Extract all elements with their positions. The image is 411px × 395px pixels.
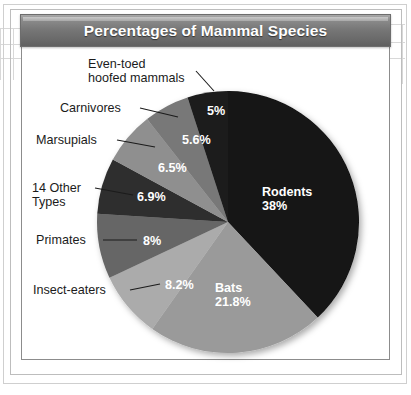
callout-marsupials: Marsupials [36, 133, 97, 147]
callout-even-toed-hoofed-mammals: Even-toed hoofed mammals [88, 57, 185, 85]
slice-value-bats: 21.8% [215, 295, 251, 309]
callout-carnivores: Carnivores [60, 101, 121, 115]
slice-label-bats: Bats [215, 281, 242, 295]
slice-label-rodents: Rodents [262, 185, 312, 199]
callout-14-other-types: 14 Other Types [32, 181, 81, 209]
slice-value-primates: 8% [143, 234, 161, 248]
callout-insect-eaters: Insect-eaters [33, 283, 106, 297]
slice-value-insect-eaters: 8.2% [165, 278, 194, 292]
slice-value-even-toed: 5% [207, 104, 225, 118]
figure-stage: Percentages of Mammal Species 5% 5.6% 6.… [0, 0, 411, 395]
slice-value-other-types: 6.9% [137, 190, 166, 204]
slice-value-rodents: 38% [262, 199, 287, 213]
pie-slice-group [97, 91, 359, 353]
leader-line-even-toed [196, 71, 214, 91]
callout-primates: Primates [36, 233, 86, 247]
slice-value-carnivores: 5.6% [182, 133, 211, 147]
slice-value-marsupials: 6.5% [158, 161, 187, 175]
